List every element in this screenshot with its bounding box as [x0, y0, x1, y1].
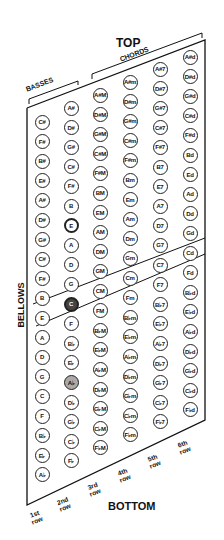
chord-button[interactable]: BM: [93, 186, 108, 201]
chord-button[interactable]: Em: [123, 192, 138, 207]
chord-button[interactable]: A#M: [93, 88, 108, 103]
bass-button[interactable]: E♭: [35, 448, 50, 463]
chord-button[interactable]: Fd: [183, 265, 198, 280]
chord-button[interactable]: F♭m: [123, 427, 138, 442]
chord-button[interactable]: Dm: [123, 231, 138, 246]
chord-button[interactable]: FM: [93, 303, 108, 318]
bass-button[interactable]: A#: [35, 193, 50, 208]
bass-button[interactable]: B: [35, 291, 50, 306]
chord-button[interactable]: E7: [153, 179, 168, 194]
bass-button[interactable]: D: [64, 257, 79, 272]
chord-button[interactable]: EM: [93, 205, 108, 220]
chord-button[interactable]: C♭M: [93, 421, 108, 436]
chord-button[interactable]: G#d: [183, 89, 198, 104]
chord-button[interactable]: C#M: [93, 146, 108, 161]
bass-button[interactable]: F#: [35, 271, 50, 286]
bass-button[interactable]: G: [64, 277, 79, 292]
bass-button[interactable]: A: [64, 238, 79, 253]
chord-button[interactable]: CM: [93, 284, 108, 299]
chord-button[interactable]: A♭7: [153, 336, 168, 351]
bass-button[interactable]: D: [35, 350, 50, 365]
bass-button[interactable]: A♭: [64, 375, 79, 390]
bass-button[interactable]: C#: [64, 159, 79, 174]
bass-button[interactable]: B♭: [64, 336, 79, 351]
bass-button[interactable]: G#: [64, 140, 79, 155]
chord-button[interactable]: Cd: [183, 246, 198, 261]
chord-button[interactable]: E♭d: [183, 304, 198, 319]
chord-button[interactable]: D#7: [153, 81, 168, 96]
chord-button[interactable]: G♭M: [93, 401, 108, 416]
bass-button[interactable]: G#: [35, 232, 50, 247]
chord-button[interactable]: C♭d: [183, 383, 198, 398]
bass-button[interactable]: F#: [64, 179, 79, 194]
chord-button[interactable]: A#m: [123, 75, 138, 90]
chord-button[interactable]: AM: [93, 225, 108, 240]
chord-button[interactable]: D#m: [123, 94, 138, 109]
chord-button[interactable]: G#M: [93, 127, 108, 142]
chord-button[interactable]: A#7: [153, 62, 168, 77]
chord-button[interactable]: A♭M: [93, 362, 108, 377]
chord-button[interactable]: A#d: [183, 50, 198, 65]
chord-button[interactable]: F#M: [93, 166, 108, 181]
chord-button[interactable]: C♭m: [123, 408, 138, 423]
bass-button[interactable]: B♭: [35, 428, 50, 443]
chord-button[interactable]: Gd: [183, 226, 198, 241]
chord-button[interactable]: A7: [153, 199, 168, 214]
chord-button[interactable]: Ed: [183, 167, 198, 182]
bass-button[interactable]: C: [35, 389, 50, 404]
chord-button[interactable]: D♭d: [183, 344, 198, 359]
chord-button[interactable]: E♭M: [93, 342, 108, 357]
chord-button[interactable]: F#m: [123, 153, 138, 168]
chord-button[interactable]: Bm: [123, 173, 138, 188]
bass-button[interactable]: B#: [35, 154, 50, 169]
bass-button[interactable]: F: [64, 316, 79, 331]
chord-button[interactable]: Bd: [183, 148, 198, 163]
bass-button[interactable]: C#: [35, 252, 50, 267]
chord-button[interactable]: G7: [153, 238, 168, 253]
chord-button[interactable]: G#m: [123, 114, 138, 129]
bass-button[interactable]: G♭: [64, 414, 79, 429]
chord-button[interactable]: G#7: [153, 101, 168, 116]
bass-button[interactable]: G: [35, 369, 50, 384]
chord-button[interactable]: Gm: [123, 251, 138, 266]
chord-button[interactable]: D♭m: [123, 369, 138, 384]
bass-button[interactable]: C#: [35, 115, 50, 130]
chord-button[interactable]: D#M: [93, 107, 108, 122]
chord-button[interactable]: Am: [123, 212, 138, 227]
bass-button[interactable]: E: [35, 311, 50, 326]
bass-button[interactable]: D#: [35, 213, 50, 228]
bass-button[interactable]: A: [35, 330, 50, 345]
bass-button[interactable]: F: [35, 409, 50, 424]
bass-button[interactable]: F#: [35, 134, 50, 149]
chord-button[interactable]: B♭d: [183, 285, 198, 300]
chord-button[interactable]: GM: [93, 264, 108, 279]
chord-button[interactable]: B♭M: [93, 323, 108, 338]
chord-button[interactable]: F#7: [153, 140, 168, 155]
bass-button[interactable]: C: [64, 297, 79, 312]
chord-button[interactable]: G♭d: [183, 363, 198, 378]
bass-button[interactable]: C♭: [64, 434, 79, 449]
bass-button[interactable]: F♭: [64, 453, 79, 468]
bass-button[interactable]: B: [64, 199, 79, 214]
bass-button[interactable]: D♭: [64, 395, 79, 410]
chord-button[interactable]: F#d: [183, 128, 198, 143]
chord-button[interactable]: C♭7: [153, 395, 168, 410]
chord-button[interactable]: Dd: [183, 206, 198, 221]
chord-button[interactable]: B7: [153, 160, 168, 175]
chord-button[interactable]: C#d: [183, 108, 198, 123]
chord-button[interactable]: Cm: [123, 271, 138, 286]
chord-button[interactable]: D7: [153, 218, 168, 233]
chord-button[interactable]: G♭m: [123, 388, 138, 403]
chord-button[interactable]: C7: [153, 258, 168, 273]
chord-button[interactable]: D♭7: [153, 356, 168, 371]
chord-button[interactable]: C#7: [153, 120, 168, 135]
chord-button[interactable]: D♭M: [93, 382, 108, 397]
chord-button[interactable]: F♭M: [93, 440, 108, 455]
chord-button[interactable]: E♭7: [153, 316, 168, 331]
chord-button[interactable]: G♭7: [153, 375, 168, 390]
chord-button[interactable]: A♭m: [123, 349, 138, 364]
chord-button[interactable]: D#d: [183, 69, 198, 84]
bass-button[interactable]: E#: [35, 173, 50, 188]
chord-button[interactable]: Ad: [183, 187, 198, 202]
chord-button[interactable]: Fm: [123, 290, 138, 305]
